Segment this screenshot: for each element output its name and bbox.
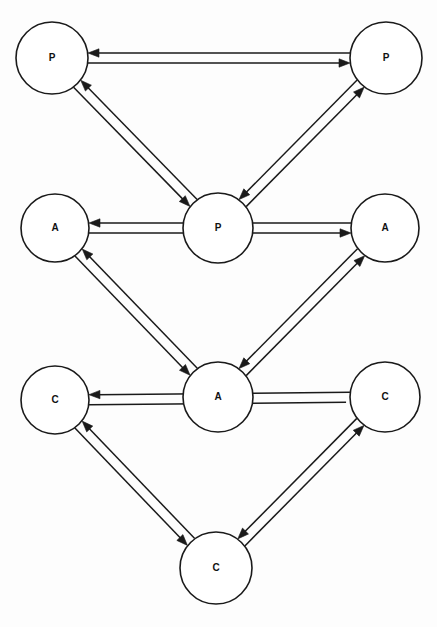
network-graph: PPPAAACCC <box>0 0 437 627</box>
node-c-right-label: C <box>381 391 388 402</box>
node-a-right[interactable]: A <box>351 194 419 262</box>
node-p-right[interactable]: P <box>350 22 422 94</box>
edge-cright-to-cbottom <box>242 418 357 534</box>
edge-cbottom-to-cright <box>245 430 360 546</box>
edge-cleft-to-cbottom <box>75 428 183 541</box>
node-c-left-label: C <box>51 394 58 405</box>
edge-acenter-to-aleft <box>86 253 197 368</box>
node-c-right[interactable]: C <box>350 362 420 432</box>
node-p-left-label: P <box>49 52 56 63</box>
node-c-left[interactable]: C <box>21 366 89 434</box>
edge-pcenter-to-pleft <box>85 85 197 200</box>
edge-pcenter-to-pright <box>246 91 360 206</box>
node-a-center[interactable]: A <box>183 362 253 432</box>
edge-cright-to-cleft-arrowhead-icon <box>89 390 100 398</box>
node-p-center[interactable]: P <box>183 193 253 263</box>
edge-aleft-to-acenter <box>75 256 186 371</box>
edge-pright-to-pcenter <box>243 80 357 195</box>
node-c-bottom[interactable]: C <box>180 532 252 604</box>
node-p-center-label: P <box>215 222 222 233</box>
diagram-canvas: PPPAAACCC <box>0 0 437 627</box>
edge-pleft-to-pcenter <box>74 87 186 202</box>
node-a-center-label: A <box>214 391 221 402</box>
edge-acenter-to-aright <box>246 260 360 376</box>
edge-cbottom-to-cleft <box>86 425 194 538</box>
node-a-left-label: A <box>51 222 58 233</box>
node-p-right-label: P <box>383 52 390 63</box>
edge-aright-to-acenter <box>243 249 357 365</box>
node-c-bottom-label: C <box>212 562 219 573</box>
edge-pleft-to-pright-arrowhead-icon <box>339 59 350 67</box>
edge-aleft-to-aright-arrowhead-icon <box>340 229 351 237</box>
node-a-right-label: A <box>381 222 388 233</box>
edges-layer <box>74 49 365 546</box>
node-a-left[interactable]: A <box>21 194 89 262</box>
edge-aright-to-aleft-arrowhead-icon <box>89 219 100 227</box>
edge-pright-to-pleft-arrowhead-icon <box>88 49 99 57</box>
nodes-layer: PPPAAACCC <box>16 22 422 604</box>
node-p-left[interactable]: P <box>16 22 88 94</box>
